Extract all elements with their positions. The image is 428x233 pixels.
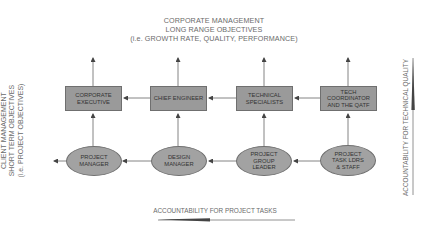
box-tech-coordinator: TECH COORDINATOR AND THE QATF [320,86,377,111]
ellipse-project-task-leaders-staff: PROJECT TASK LDRS & STAFF [320,145,376,176]
client-management-label: CLIENT MANAGEMENT SHORT TERM OBJECTIVES … [0,66,25,196]
box-chief-engineer: CHIEF ENGINEER [150,86,207,111]
header-line-1: CORPORATE MANAGEMENT [0,16,428,25]
technical-quality-accountability-label: ACCOUNTABILITY FOR TECHNICAL QUALITY [402,53,409,203]
header-line-3: (i.e. GROWTH RATE, QUALITY, PERFORMANCE) [0,34,428,43]
corporate-management-header: CORPORATE MANAGEMENT LONG RANGE OBJECTIV… [0,16,428,43]
ellipse-project-manager: PROJECT MANAGER [66,146,122,176]
ellipse-project-group-leader: PROJECT GROUP LEADER [236,146,292,176]
header-line-2: LONG RANGE OBJECTIVES [0,25,428,34]
left-line-3: (i.e. PROJECT OBJECTIVES) [17,66,25,196]
left-line-1: CLIENT MANAGEMENT [0,66,8,196]
project-tasks-accountability-label: ACCOUNTABILITY FOR PROJECT TASKS [150,207,280,214]
box-technical-specialists: TECHNICAL SPECIALISTS [236,86,293,111]
right-wedge [411,58,414,110]
ellipse-design-manager: DESIGN MANAGER [151,146,207,176]
box-corporate-executive: CORPORATE EXECUTIVE [65,86,122,111]
left-line-2: SHORT TERM OBJECTIVES [9,66,17,196]
